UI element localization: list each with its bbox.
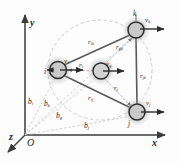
node-label-i: i bbox=[44, 68, 46, 76]
vector-label-r-i: ri bbox=[79, 62, 83, 69]
origin-label: O bbox=[27, 138, 34, 148]
vector-label-r-jk: rjk bbox=[140, 73, 146, 80]
link-k-j bbox=[136, 38, 137, 104]
velocity-label-v-k: vk bbox=[145, 17, 150, 24]
vector-label-b-j: bj bbox=[84, 122, 89, 130]
vector-label-r-ij: rij bbox=[88, 95, 93, 102]
vector-label-r-gk: rgk bbox=[116, 44, 123, 51]
axis-label-x: x bbox=[152, 138, 157, 148]
axis-label-z: z bbox=[9, 132, 13, 142]
position-vector-b-j bbox=[25, 116, 132, 135]
vector-diagram-figure: y x z O i k j vi vg vk vj rik rij rjk rg… bbox=[0, 0, 178, 163]
node-label-k: k bbox=[133, 10, 136, 18]
node-label-j: j bbox=[128, 120, 130, 128]
velocity-label-v-i: vi bbox=[64, 58, 68, 65]
node-k bbox=[128, 22, 144, 38]
vector-label-b-k: bk bbox=[44, 100, 50, 108]
velocity-label-v-j: vj bbox=[146, 100, 150, 107]
vector-label-b-i: bi bbox=[28, 98, 33, 106]
velocity-label-v-g: vg bbox=[106, 61, 111, 68]
vector-label-b-g: bg bbox=[56, 112, 62, 120]
axis-label-y: y bbox=[30, 18, 34, 28]
vector-label-r-j: rj bbox=[114, 85, 118, 92]
vector-label-r-ik: rik bbox=[88, 39, 94, 46]
